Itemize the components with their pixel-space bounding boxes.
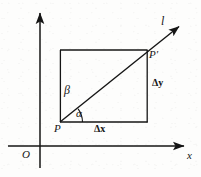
angle-alpha-label: α [76, 108, 82, 119]
delta-x-label: Δx [94, 124, 105, 134]
angle-beta-label: β [64, 84, 70, 96]
x-axis-label: x [187, 150, 192, 161]
delta-y-label: Δy [152, 78, 163, 88]
point-p-prime-label: P′ [149, 49, 158, 60]
origin-label: O [22, 149, 30, 160]
figure-canvas [0, 0, 201, 177]
line-l-label: l [161, 15, 164, 27]
point-p-label: P [54, 123, 61, 134]
geometry-figure: l P′ P α β Δy Δx O x [0, 0, 201, 177]
